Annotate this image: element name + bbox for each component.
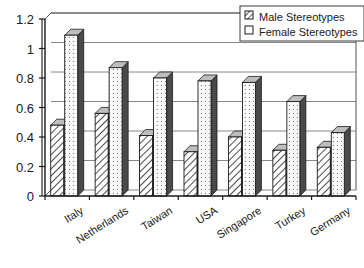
bar-chart: 00.20.40.60.811.2 ItalyNetherlandsTaiwan… [0,0,364,268]
y-tick-label: 0 [0,189,34,204]
bar-female [331,127,350,196]
bar-female [287,96,306,196]
bar-female [109,62,128,196]
y-tick-label: 0.2 [0,159,34,174]
legend-label-male: Male Stereotypes [259,11,345,24]
y-tick-label: 0.8 [0,71,34,86]
y-tick-label: 1.2 [0,12,34,27]
bar-female [65,29,84,196]
bar-female [154,72,173,196]
y-tick-label: 0.4 [0,130,34,145]
bar-female [242,76,261,196]
bar-female [198,75,217,196]
y-tick-label: 1 [0,41,34,56]
y-tick-label: 0.6 [0,100,34,115]
legend-label-female: Female Stereotypes [259,26,357,39]
